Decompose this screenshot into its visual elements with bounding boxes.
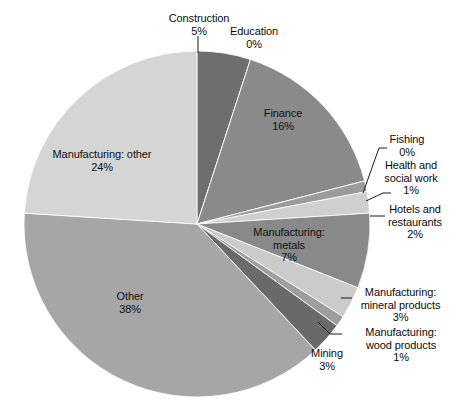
slice-label-education-pct: 0% <box>218 38 290 51</box>
slice-label-hotels-name-1: Hotels and <box>389 203 441 215</box>
slice-label-education: Education 0% <box>218 25 290 50</box>
slice-label-mfg-wood-pct: 1% <box>348 351 454 364</box>
pie-chart: Construction 5% Education 0% Finance 16%… <box>0 0 454 417</box>
slice-label-hotels-pct: 2% <box>377 228 453 241</box>
slice-label-health: Health and social work 1% <box>371 159 451 197</box>
slice-label-fishing: Fishing 0% <box>376 133 438 158</box>
slice-label-hotels: Hotels and restaurants 2% <box>377 203 453 241</box>
slice-label-mfg-wood-name-1: Manufacturing: <box>365 326 436 338</box>
slice-label-health-name-1: Health and <box>385 159 437 171</box>
slice-label-health-name-2: social work <box>371 172 451 185</box>
slice-label-other: Other 38% <box>100 290 160 315</box>
slice-label-mfg-other: Manufacturing: other 24% <box>35 148 169 173</box>
pie-slice-manufacturing-other[interactable] <box>24 51 197 224</box>
slice-label-mining: Mining 3% <box>297 347 357 372</box>
slice-label-health-pct: 1% <box>371 184 451 197</box>
slice-label-mfg-mineral-name-2: mineral products <box>347 299 454 312</box>
slice-label-finance-pct: 16% <box>245 120 321 133</box>
slice-label-mfg-metals: Manufacturing: metals 7% <box>237 226 341 264</box>
slice-label-mfg-mineral: Manufacturing: mineral products 3% <box>347 286 454 324</box>
slice-label-mining-name: Mining <box>311 347 343 359</box>
slice-label-finance: Finance 16% <box>245 107 321 132</box>
slice-label-mfg-wood: Manufacturing: wood products 1% <box>348 326 454 364</box>
slice-label-fishing-pct: 0% <box>376 146 438 159</box>
slice-label-construction-name: Construction <box>169 12 230 24</box>
slice-label-mfg-metals-pct: 7% <box>237 251 341 264</box>
slice-label-mfg-mineral-pct: 3% <box>347 311 454 324</box>
slice-label-mfg-other-pct: 24% <box>35 161 169 174</box>
slice-label-other-name: Other <box>116 290 143 302</box>
slice-label-mfg-wood-name-2: wood products <box>348 339 454 352</box>
slice-label-mfg-metals-name-1: Manufacturing: <box>253 226 324 238</box>
slice-label-education-name: Education <box>230 25 278 37</box>
slice-label-mining-pct: 3% <box>297 360 357 373</box>
slice-label-fishing-name: Fishing <box>390 133 425 145</box>
slice-label-other-pct: 38% <box>100 303 160 316</box>
slice-label-hotels-name-2: restaurants <box>377 216 453 229</box>
slice-label-finance-name: Finance <box>264 107 302 119</box>
slice-label-mfg-other-name: Manufacturing: other <box>53 148 152 160</box>
pie-slices-group <box>24 51 370 397</box>
slice-label-mfg-mineral-name-1: Manufacturing: <box>365 286 436 298</box>
slice-label-mfg-metals-name-2: metals <box>237 239 341 252</box>
